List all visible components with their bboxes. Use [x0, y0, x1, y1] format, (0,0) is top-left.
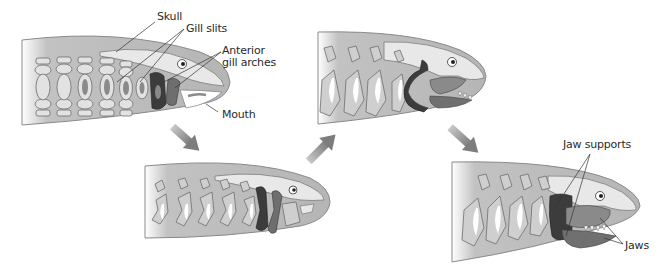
- label-mouth: Mouth: [222, 109, 255, 121]
- label-gill-slits: Gill slits: [186, 23, 227, 35]
- arrow-stage1-to-stage2: [167, 120, 206, 157]
- stage-2-enlarged-arches: [145, 163, 330, 238]
- label-jaw-supports: Jaw supports: [563, 139, 631, 151]
- label-skull: Skull: [157, 11, 182, 23]
- arrow-stage2-to-stage3: [302, 128, 342, 168]
- stage-1-jawless-fish: [22, 22, 230, 125]
- stage-3-early-jaws: [318, 32, 486, 124]
- arrow-stage3-to-stage4: [444, 121, 484, 160]
- stage-4-jaws-with-supports: [452, 154, 640, 262]
- label-anterior-line2: gill arches: [222, 57, 276, 69]
- label-jaws: Jaws: [625, 240, 649, 252]
